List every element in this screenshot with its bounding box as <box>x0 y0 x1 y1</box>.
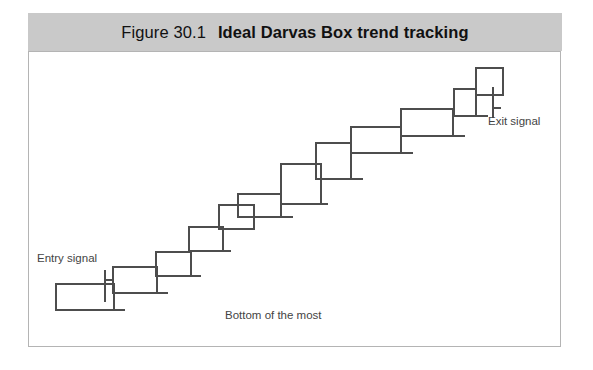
figure-container: Figure 30.1Ideal Darvas Box trend tracki… <box>0 0 593 370</box>
stop-loss-note-line-1: Bottom of the most <box>225 308 331 323</box>
stop-loss-note: Bottom of the most recent Darvas Box is … <box>225 279 331 347</box>
figure-plot-panel: Entry signal Exit signal Bottom of the m… <box>28 51 561 347</box>
darvas-boxes <box>56 68 503 310</box>
figure-caption: Ideal Darvas Box trend tracking <box>218 23 469 41</box>
figure-title: Figure 30.1Ideal Darvas Box trend tracki… <box>121 23 468 42</box>
darvas-box <box>156 252 191 276</box>
darvas-box <box>454 89 476 116</box>
darvas-box <box>281 164 321 204</box>
darvas-box <box>113 267 157 293</box>
entry-signal-label: Entry signal <box>37 251 97 266</box>
darvas-box <box>401 109 453 136</box>
darvas-box <box>351 127 401 153</box>
darvas-box <box>476 68 503 95</box>
figure-number: Figure 30.1 <box>121 23 206 41</box>
figure-title-band: Figure 30.1Ideal Darvas Box trend tracki… <box>28 13 562 51</box>
darvas-box <box>189 227 223 251</box>
entry-signal-marker <box>105 270 113 302</box>
exit-signal-label: Exit signal <box>488 114 540 129</box>
